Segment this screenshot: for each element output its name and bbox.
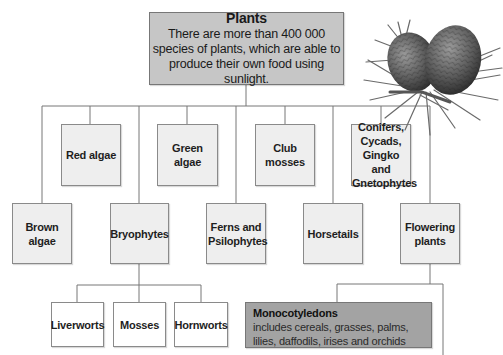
pine-cones-icon: [360, 0, 503, 140]
node-green-algae: Green algae: [157, 124, 218, 186]
node-red-algae: Red algae: [61, 124, 121, 186]
node-label: Green algae: [158, 141, 217, 169]
node-brown-algae: Brown algae: [12, 203, 72, 264]
node-label: Red algae: [64, 148, 118, 162]
node-ferns: Ferns and Psilophytes: [206, 203, 266, 264]
node-bryophytes: Bryophytes: [110, 203, 169, 264]
node-monocot-description: includes cereals, grasses, palms, lilies…: [251, 320, 426, 348]
node-label: Hornworts: [172, 318, 229, 332]
node-label: Mosses: [118, 318, 161, 332]
node-label: Brown algae: [20, 220, 64, 248]
node-plants: Plants There are more than 400 000 speci…: [149, 12, 344, 85]
node-plants-title: Plants: [224, 10, 269, 27]
node-label: Liverworts: [49, 318, 107, 332]
node-label: Club mosses: [261, 141, 309, 169]
node-monocotyledons: Monocotyledons includes cereals, grasses…: [245, 302, 432, 348]
node-mosses: Mosses: [113, 302, 166, 347]
node-label: Bryophytes: [108, 227, 171, 241]
node-label: Flowering plants: [402, 220, 458, 248]
node-label: Ferns and Psilophytes: [206, 220, 266, 248]
node-label: Horsetails: [305, 227, 360, 241]
node-plants-description: There are more than 400 000 species of p…: [150, 27, 343, 87]
node-flowering-plants: Flowering plants: [400, 203, 460, 264]
node-horsetails: Horsetails: [303, 203, 363, 264]
node-monocot-title: Monocotyledons: [251, 306, 340, 320]
node-liverworts: Liverworts: [51, 302, 104, 347]
node-hornworts: Hornworts: [174, 302, 228, 347]
node-club-mosses: Club mosses: [255, 124, 315, 186]
plant-classification-diagram: Plants There are more than 400 000 speci…: [0, 0, 503, 355]
